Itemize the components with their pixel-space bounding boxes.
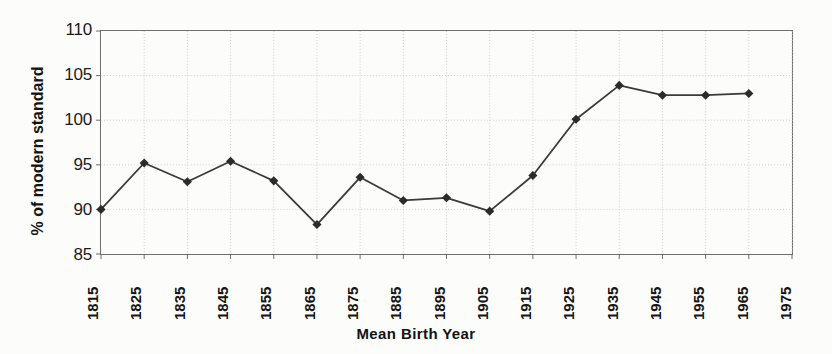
x-axis-tick-label-text: 1945	[647, 287, 664, 320]
data-point-marker	[399, 196, 408, 205]
x-axis-tick-label-text: 1925	[560, 287, 577, 320]
x-axis-tick-label-text: 1875	[344, 287, 361, 320]
data-point-marker	[744, 89, 753, 98]
x-axis-tick-label-text: 1825	[127, 287, 144, 320]
x-axis-tick-label: 1875	[330, 202, 347, 262]
x-axis-tick-label: 1895	[417, 202, 434, 262]
x-axis-tick-label-text: 1855	[257, 287, 274, 320]
x-axis-tick-label: 1915	[503, 202, 520, 262]
y-axis-tick-label: 100	[46, 110, 92, 130]
x-axis-tick-label: 1855	[243, 202, 260, 262]
x-axis-tick-label: 1845	[200, 202, 217, 262]
x-axis-tick-label: 1835	[157, 202, 174, 262]
y-axis-tick-label: 95	[46, 155, 92, 175]
data-point-marker	[183, 177, 192, 186]
x-axis-tick-label-text: 1815	[84, 287, 101, 320]
x-axis-tick-label: 1865	[287, 202, 304, 262]
x-axis-tick-labels: 1815182518351845185518651875188518951905…	[0, 262, 832, 322]
x-axis-tick-label-text: 1965	[734, 287, 751, 320]
x-axis-tick-label: 1905	[460, 202, 477, 262]
x-axis-tick-label-text: 1845	[214, 287, 231, 320]
x-axis-tick-label-text: 1895	[431, 287, 448, 320]
x-axis-tick-label: 1925	[546, 202, 563, 262]
x-axis-tick-label-text: 1835	[171, 287, 188, 320]
x-axis-tick-label: 1885	[373, 202, 390, 262]
x-axis-tick-label-text: 1975	[777, 287, 794, 320]
x-axis-tick-label-text: 1915	[517, 287, 534, 320]
x-axis-tick-label: 1955	[676, 202, 693, 262]
x-axis-tick-label: 1935	[590, 202, 607, 262]
x-axis-tick-label: 1825	[113, 202, 130, 262]
x-axis-tick-label: 1815	[70, 202, 87, 262]
chart-figure: % of modern standard 859095100105110 181…	[0, 0, 832, 354]
data-point-marker	[442, 193, 451, 202]
x-axis-tick-label: 1965	[720, 202, 737, 262]
data-point-marker	[658, 91, 667, 100]
x-axis-title: Mean Birth Year	[0, 325, 832, 342]
y-axis-tick-label: 105	[46, 65, 92, 85]
x-axis-tick-label-text: 1905	[474, 287, 491, 320]
x-axis-tick-label: 1945	[633, 202, 650, 262]
data-point-marker	[226, 157, 235, 166]
y-axis-tick-label: 110	[46, 20, 92, 40]
data-point-marker	[701, 91, 710, 100]
x-axis-tick-label: 1975	[763, 202, 780, 262]
x-axis-tick-label-text: 1865	[301, 287, 318, 320]
x-axis-tick-label-text: 1935	[604, 287, 621, 320]
x-axis-tick-label-text: 1955	[690, 287, 707, 320]
x-axis-tick-label-text: 1885	[387, 287, 404, 320]
